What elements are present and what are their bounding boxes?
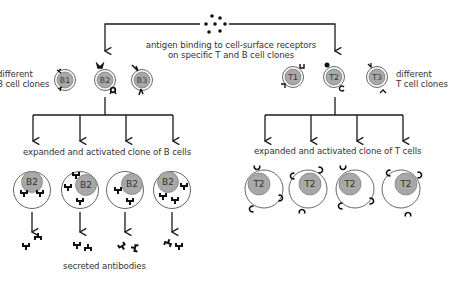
t2-label: T2 [328, 73, 339, 82]
b-clone-caption: expanded and activated clone of B cells [23, 147, 191, 157]
b3-label: B3 [137, 76, 147, 85]
t-clone-caption: expanded and activated clone of T cells [254, 146, 421, 156]
b-label-line-1: different [0, 69, 49, 79]
b-clone-label: B2 [80, 180, 92, 190]
t-clone-cell-2 [289, 167, 327, 213]
caption-line-2: on specific T and B cell clones [136, 50, 326, 60]
antigen-icon [204, 14, 227, 34]
antigen-binding-caption: antigen binding to cell-surface receptor… [136, 40, 326, 60]
t-clone-cell-4 [382, 170, 422, 217]
secreted-antibodies [23, 233, 182, 251]
b-expansion-arrows [33, 97, 173, 141]
t3-label: T3 [371, 73, 382, 82]
b-clone-label: B2 [26, 177, 38, 187]
b-clone-label: B2 [162, 177, 174, 187]
b-clones-label: different B cell clones [0, 69, 49, 89]
secreted-antibodies-caption: secreted antibodies [63, 261, 146, 271]
t-clone-label: T2 [252, 179, 264, 189]
t-clone-label: T2 [399, 179, 411, 189]
t-label-line-1: different [396, 69, 448, 79]
secretion-arrows [32, 212, 172, 232]
b2-label: B2 [100, 76, 110, 85]
caption-line-1: antigen binding to cell-surface receptor… [136, 40, 326, 50]
t-label-line-2: T cell clones [396, 79, 448, 89]
t-clones-label: different T cell clones [396, 69, 448, 89]
t-clone-label: T2 [303, 179, 315, 189]
t-expansion-arrows [265, 97, 403, 141]
b-clone-cell-2 [62, 172, 99, 209]
t1-label: T1 [287, 73, 298, 82]
b1-label: B1 [60, 76, 70, 85]
b-clone-label: B2 [126, 179, 138, 189]
t-clone-label: T2 [343, 179, 355, 189]
b-label-line-2: B cell clones [0, 79, 49, 89]
b-clone-cell-3 [107, 172, 144, 209]
